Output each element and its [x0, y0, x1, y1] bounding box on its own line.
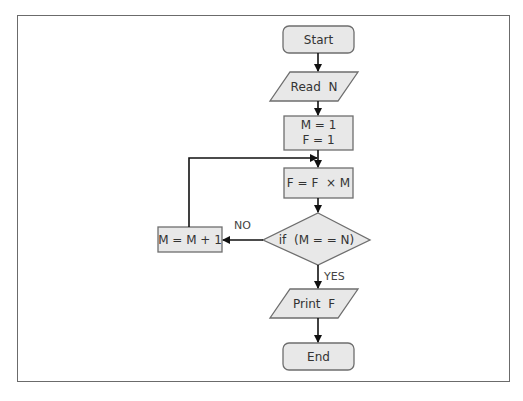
- inc-label: M = M + 1: [158, 233, 222, 247]
- yes-label: YES: [324, 270, 345, 283]
- start-label: Start: [283, 33, 354, 47]
- print-label: Print F: [270, 297, 358, 311]
- end-label: End: [283, 350, 354, 364]
- init-label-m: M = 1: [284, 118, 353, 132]
- read-label: Read N: [270, 80, 358, 94]
- decision-label: if (M = = N): [263, 233, 370, 247]
- mult-label: F = F × M: [284, 176, 353, 190]
- no-label: NO: [234, 219, 251, 232]
- flowchart-canvas: [0, 0, 523, 401]
- init-label-f: F = 1: [284, 133, 353, 147]
